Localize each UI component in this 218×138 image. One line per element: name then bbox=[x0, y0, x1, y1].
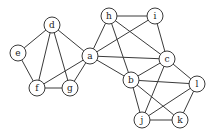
node-label: a bbox=[87, 51, 93, 61]
node-d: d bbox=[44, 17, 60, 33]
node-a: a bbox=[82, 48, 98, 64]
node-label: k bbox=[177, 115, 183, 125]
node-label: j bbox=[140, 115, 144, 125]
nodes-layer: defgahicbljk bbox=[10, 8, 205, 128]
edge-a-c bbox=[90, 56, 167, 59]
edge-c-j bbox=[142, 59, 167, 120]
node-label: g bbox=[67, 83, 73, 93]
graph-diagram: defgahicbljk bbox=[0, 0, 218, 138]
node-f: f bbox=[29, 80, 45, 96]
node-label: c bbox=[164, 54, 169, 64]
node-label: l bbox=[196, 79, 199, 89]
node-c: c bbox=[159, 51, 175, 67]
node-l: l bbox=[189, 76, 205, 92]
node-e: e bbox=[10, 45, 26, 61]
node-k: k bbox=[172, 112, 188, 128]
node-g: g bbox=[62, 80, 78, 96]
node-h: h bbox=[101, 8, 117, 24]
node-label: e bbox=[15, 48, 20, 58]
node-label: d bbox=[49, 20, 55, 30]
node-i: i bbox=[147, 8, 163, 24]
edge-d-f bbox=[37, 25, 52, 88]
node-label: i bbox=[154, 11, 157, 21]
node-b: b bbox=[123, 72, 139, 88]
edge-h-b bbox=[109, 16, 131, 80]
edges-layer bbox=[18, 16, 197, 120]
node-j: j bbox=[134, 112, 150, 128]
node-label: b bbox=[128, 75, 134, 85]
edge-b-l bbox=[131, 80, 197, 84]
node-label: h bbox=[106, 11, 112, 21]
edge-d-g bbox=[52, 25, 70, 88]
